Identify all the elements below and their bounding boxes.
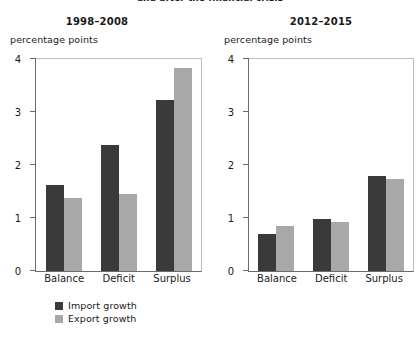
bar-import xyxy=(46,185,64,271)
y-tick-label: 4 xyxy=(15,54,21,65)
y-tick-label: 1 xyxy=(15,213,21,224)
y-axis-unit-label: percentage points xyxy=(10,34,98,45)
bar-import xyxy=(258,234,276,271)
y-tick-label: 3 xyxy=(228,107,234,118)
panel-title: 2012–2015 xyxy=(216,16,420,27)
panel-title: 1998–2008 xyxy=(0,16,202,27)
bar-group-deficit xyxy=(313,59,349,271)
x-tick-label: Deficit xyxy=(315,273,347,284)
legend-label: Import growth xyxy=(68,300,137,311)
bar-import xyxy=(101,145,119,271)
chart-legend: Import growth Export growth xyxy=(55,300,137,324)
y-tick-label: 3 xyxy=(15,107,21,118)
y-tick-label: 4 xyxy=(228,54,234,65)
x-tick-label: Balance xyxy=(44,273,84,284)
x-tick-label: Deficit xyxy=(103,273,135,284)
x-axis-labels: Balance Deficit Surplus xyxy=(248,273,412,284)
plot-area: 0 1 2 3 4 xyxy=(248,58,414,272)
bar-groups xyxy=(36,59,201,271)
x-axis-labels: Balance Deficit Surplus xyxy=(35,273,200,284)
bar-export xyxy=(174,68,192,271)
y-tick-label: 2 xyxy=(15,160,21,171)
x-tick-label: Balance xyxy=(257,273,297,284)
y-tick-label: 2 xyxy=(228,160,234,171)
bar-group-balance xyxy=(46,59,82,271)
bar-export xyxy=(64,198,82,271)
y-tick-label: 0 xyxy=(228,266,234,277)
bar-export xyxy=(331,222,349,271)
chart-panel-2012-2015: 2012–2015 percentage points 0 1 2 3 4 xyxy=(210,0,420,300)
bar-group-surplus xyxy=(368,59,404,271)
legend-item-export: Export growth xyxy=(55,313,137,324)
bar-export xyxy=(276,226,294,271)
legend-swatch-icon xyxy=(55,302,63,310)
bar-import xyxy=(313,219,331,271)
bar-export xyxy=(119,194,137,271)
chart-panels: 1998–2008 percentage points 0 1 2 3 4 xyxy=(0,0,420,340)
bar-groups xyxy=(249,59,413,271)
bar-export xyxy=(386,179,404,271)
legend-swatch-icon xyxy=(55,315,63,323)
plot-area: 0 1 2 3 4 xyxy=(35,58,202,272)
bar-group-surplus xyxy=(156,59,192,271)
y-tick-label: 1 xyxy=(228,213,234,224)
bar-group-deficit xyxy=(101,59,137,271)
y-tick-label: 0 xyxy=(15,266,21,277)
bar-import xyxy=(156,100,174,271)
y-axis-unit-label: percentage points xyxy=(224,34,312,45)
x-tick-label: Surplus xyxy=(365,273,402,284)
bar-import xyxy=(368,176,386,271)
chart-panel-1998-2008: 1998–2008 percentage points 0 1 2 3 4 xyxy=(0,0,210,300)
bar-group-balance xyxy=(258,59,294,271)
x-tick-label: Surplus xyxy=(153,273,190,284)
legend-item-import: Import growth xyxy=(55,300,137,311)
legend-label: Export growth xyxy=(68,313,136,324)
